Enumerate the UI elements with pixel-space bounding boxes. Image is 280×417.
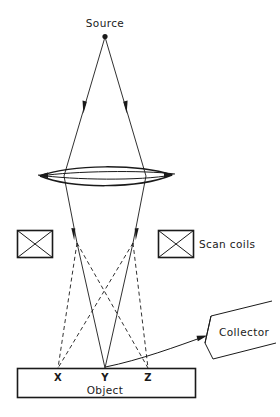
lens-tip-stroke-lower	[38, 175, 172, 179]
figure-root: Source	[0, 0, 280, 417]
object-label: Object	[87, 384, 124, 396]
illumination-beam	[64, 37, 146, 176]
scan-coils-label: Scan coils	[199, 238, 255, 250]
specimen-point-z-label: Z	[144, 372, 152, 383]
scan-coil-right	[159, 231, 194, 258]
post-lens-left-ray	[64, 176, 77, 243]
ray-left-to-x	[58, 243, 77, 368]
signal-curve	[106, 337, 204, 367]
ray-right-to-y	[105, 243, 133, 368]
specimen-point-x-label: X	[54, 372, 62, 383]
scan-coil-left	[18, 231, 53, 258]
post-lens-left-arrowhead	[71, 228, 75, 240]
ray-left-to-z	[77, 243, 148, 368]
ray-right-to-x	[58, 243, 133, 368]
condenser-lens	[38, 167, 175, 186]
scanned-rays-left	[58, 243, 148, 368]
collector-label: Collector	[219, 326, 270, 338]
collector-signal-path	[106, 335, 208, 367]
ray-left-to-y	[77, 243, 105, 368]
scanned-rays-right	[58, 243, 148, 368]
specimen-point-y-label: Y	[100, 372, 109, 383]
post-lens-right-arrowhead	[135, 228, 139, 240]
lens-tip-stroke-upper	[40, 172, 175, 176]
source-label: Source	[86, 17, 124, 29]
ray-right-to-z	[133, 243, 148, 368]
lens-lower-surface	[40, 175, 172, 186]
sem-ray-diagram: Source	[0, 0, 280, 417]
post-lens-right-ray	[133, 176, 146, 243]
collector-mouth-edge	[205, 316, 211, 343]
